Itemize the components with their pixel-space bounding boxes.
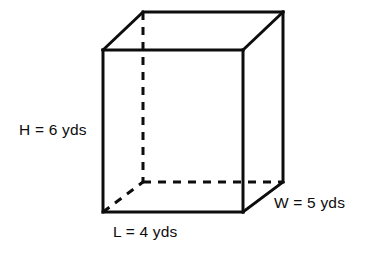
height-label: H = 6 yds [19, 122, 87, 138]
back-face-edges [143, 12, 283, 182]
edge-depth-top-right [243, 12, 283, 50]
hidden-edges [103, 12, 283, 212]
front-face-edges [103, 50, 243, 212]
length-label: L = 4 yds [113, 224, 178, 240]
figure-canvas: H = 6 yds L = 4 yds W = 5 yds [0, 0, 377, 256]
edge-hidden-depth-bottom-left [103, 182, 143, 212]
width-label: W = 5 yds [274, 195, 345, 211]
edge-depth-top-left [103, 12, 143, 50]
